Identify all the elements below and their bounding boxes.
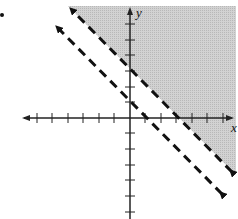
bullet-dot — [0, 13, 4, 17]
y-axis-label: y — [134, 5, 142, 20]
x-axis-label: x — [230, 120, 237, 135]
coordinate-graph: x y — [0, 0, 238, 219]
